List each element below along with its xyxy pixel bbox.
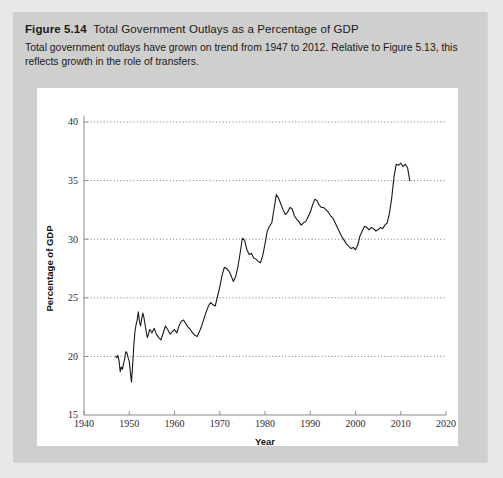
caption-block: Figure 5.14 Total Government Outlays as … [25,22,475,68]
x-tick-label: 1970 [210,418,230,429]
figure-caption: Total government outlays have grown on t… [25,41,467,68]
y-tick-marks [84,122,88,356]
figure-number: Figure 5.14 [25,23,87,35]
x-tick-marks [84,411,446,415]
gridlines-group [84,122,446,356]
y-tick-label: 30 [68,234,78,245]
axes-group [84,116,446,415]
line-chart: 194019501960197019801990200020102020 152… [37,88,458,446]
x-tick-label: 1990 [300,418,320,429]
x-tick-label: 2000 [346,418,366,429]
y-tick-labels: 152025303540 [68,116,78,420]
y-tick-label: 15 [68,409,78,420]
x-tick-label: 2020 [436,418,456,429]
x-tick-label: 1950 [119,418,139,429]
figure-panel: Figure 5.14 Total Government Outlays as … [13,12,487,462]
figure-title: Figure 5.14 Total Government Outlays as … [25,22,475,37]
y-tick-label: 25 [68,292,78,303]
x-tick-label: 1960 [165,418,185,429]
y-tick-label: 35 [68,175,78,186]
y-tick-label: 20 [68,351,78,362]
x-axis-title: Year [255,436,275,446]
figure-title-text: Total Government Outlays as a Percentage… [93,23,359,35]
chart-card: 194019501960197019801990200020102020 152… [37,88,458,446]
x-tick-label: 2010 [391,418,411,429]
y-axis-title: Percentage of GDP [44,225,55,312]
data-series-line [116,163,410,382]
figure-page: Figure 5.14 Total Government Outlays as … [0,0,503,478]
x-tick-label: 1980 [255,418,275,429]
y-tick-label: 40 [68,116,78,127]
x-tick-labels: 194019501960197019801990200020102020 [74,418,456,429]
